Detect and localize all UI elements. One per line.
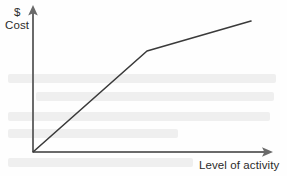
chart-figure: $ Cost Level of activity bbox=[0, 0, 287, 176]
chart-plot-area bbox=[0, 0, 287, 176]
y-axis-title: Cost bbox=[5, 19, 29, 32]
x-axis-title: Level of activity bbox=[199, 159, 279, 172]
cost-data-line bbox=[33, 21, 251, 152]
y-axis-currency-label: $ bbox=[14, 6, 21, 19]
